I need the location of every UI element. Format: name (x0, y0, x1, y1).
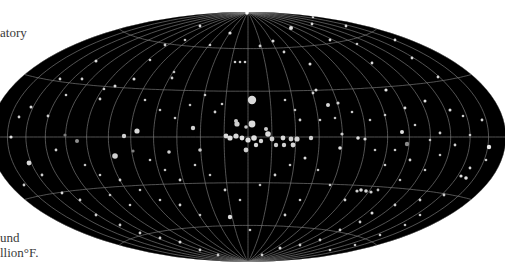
star (159, 199, 162, 202)
star (272, 40, 275, 43)
star (371, 62, 374, 65)
star (405, 142, 409, 146)
star (59, 78, 62, 81)
star (199, 25, 202, 28)
star (284, 99, 287, 102)
star (179, 179, 182, 182)
star (309, 63, 312, 66)
star (394, 149, 397, 152)
star (204, 94, 207, 97)
star (462, 115, 465, 118)
star (459, 174, 462, 177)
star (309, 136, 313, 140)
star (173, 71, 176, 74)
star (289, 26, 293, 30)
star (384, 164, 387, 167)
star (248, 96, 256, 104)
star (312, 16, 315, 19)
star (228, 31, 231, 34)
star (364, 189, 368, 193)
star (79, 199, 82, 202)
star (109, 194, 112, 197)
star (245, 137, 250, 142)
star (279, 247, 282, 250)
star (65, 94, 68, 97)
star (338, 146, 342, 150)
star (315, 89, 318, 92)
star (114, 85, 117, 88)
star (299, 244, 302, 247)
star (409, 159, 412, 162)
star (356, 136, 360, 140)
star (240, 136, 245, 141)
star (369, 119, 372, 122)
star (439, 154, 442, 157)
star (424, 169, 427, 172)
star (345, 25, 348, 28)
star (199, 249, 202, 252)
star (329, 184, 332, 187)
star (179, 241, 182, 244)
star (265, 131, 271, 137)
star (81, 78, 84, 81)
star (369, 190, 372, 193)
star (209, 44, 212, 47)
star (354, 244, 357, 247)
star (149, 159, 152, 162)
star (144, 99, 147, 102)
star (159, 237, 162, 240)
star (485, 159, 488, 162)
caption-bottom-line-2: llion°F. (0, 245, 38, 260)
star (359, 221, 362, 224)
star (245, 11, 249, 15)
star (329, 249, 332, 252)
star (228, 215, 232, 219)
star (384, 114, 387, 117)
star (340, 132, 343, 135)
star (139, 232, 142, 235)
star (439, 132, 442, 135)
star (239, 199, 242, 202)
star (234, 61, 237, 64)
star (283, 51, 286, 54)
star (63, 133, 66, 136)
star (264, 127, 268, 131)
star (244, 61, 247, 64)
star (179, 204, 182, 207)
star (404, 107, 407, 110)
star (95, 214, 98, 217)
star (47, 115, 50, 118)
star (454, 144, 457, 147)
star (469, 167, 472, 170)
star (419, 199, 422, 202)
star (282, 143, 286, 147)
star (119, 179, 122, 182)
star (284, 214, 287, 217)
star (194, 164, 197, 167)
star (304, 157, 307, 160)
star (487, 145, 491, 149)
star (227, 135, 232, 140)
star (129, 204, 132, 207)
star (41, 174, 44, 177)
star (326, 103, 330, 107)
star (259, 139, 263, 143)
star (214, 111, 217, 114)
star (254, 143, 258, 147)
star (134, 128, 139, 133)
star (344, 199, 347, 202)
star (334, 117, 337, 120)
star (363, 137, 366, 140)
star (198, 148, 202, 152)
star (84, 164, 87, 167)
caption-bottom-fragment: und llion°F. (0, 230, 38, 260)
star (9, 135, 12, 138)
all-sky-star-map (0, 0, 505, 266)
star (233, 133, 238, 138)
star (289, 164, 292, 167)
star (274, 174, 277, 177)
star (339, 229, 342, 232)
star (221, 103, 224, 106)
star (429, 139, 432, 142)
star (359, 188, 363, 192)
